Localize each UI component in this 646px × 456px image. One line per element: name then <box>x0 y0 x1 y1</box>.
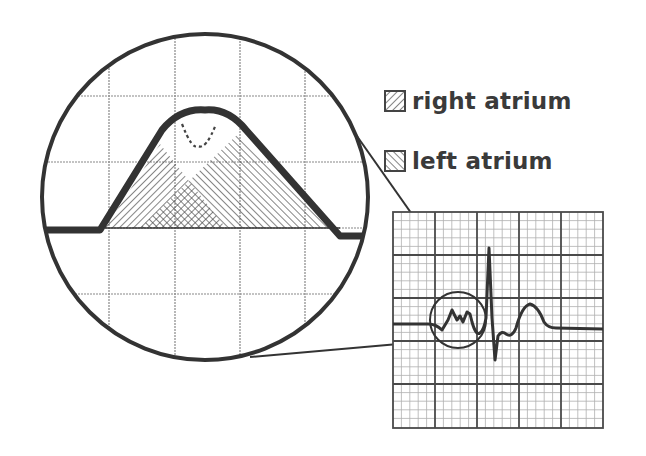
p-wave-diagram <box>0 0 646 456</box>
legend-item-left-atrium: left atrium <box>384 148 553 174</box>
ecg-strip <box>393 212 603 428</box>
magnified-p-wave <box>30 20 380 380</box>
hatch-backslash-icon <box>384 90 406 112</box>
hatch-slash-icon <box>384 150 406 172</box>
legend-label: left atrium <box>412 148 553 174</box>
legend-item-right-atrium: right atrium <box>384 88 572 114</box>
legend-label: right atrium <box>412 88 572 114</box>
